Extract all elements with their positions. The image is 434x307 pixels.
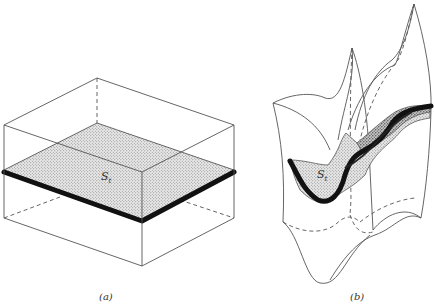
plane-surface	[4, 123, 234, 221]
figure: St (a)	[0, 0, 434, 307]
warped-surface	[290, 105, 431, 202]
panel-a: St (a)	[4, 78, 234, 302]
diagram-canvas: St (a)	[0, 0, 434, 307]
caption-b: (b)	[350, 291, 364, 302]
caption-a: (a)	[99, 291, 113, 302]
panel-b: St (b)	[273, 4, 431, 302]
